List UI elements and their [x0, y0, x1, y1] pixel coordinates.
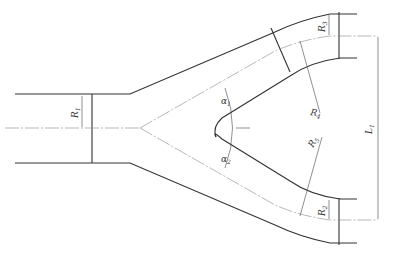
- dimension-labels: R1 R3 R2 L1 R4 R5 α1 α2: [70, 21, 375, 217]
- label-R4: R4: [308, 107, 322, 120]
- label-alpha1: α1: [221, 96, 231, 107]
- label-R2: R2: [317, 205, 328, 217]
- label-L1: L1: [364, 124, 375, 135]
- pipe-outline: [15, 12, 357, 245]
- dimension-lines: [82, 15, 378, 219]
- dim-R5: [300, 137, 322, 216]
- label-R1: R1: [70, 107, 81, 119]
- wye-pipe-diagram: R1 R3 R2 L1 R4 R5 α1 α2: [0, 0, 394, 257]
- dim-R4: [300, 41, 320, 113]
- diagram-canvas: R1 R3 R2 L1 R4 R5 α1 α2: [0, 0, 394, 257]
- centerlines: [5, 36, 378, 220]
- label-R3: R3: [317, 21, 328, 33]
- label-alpha2: α2: [221, 154, 231, 165]
